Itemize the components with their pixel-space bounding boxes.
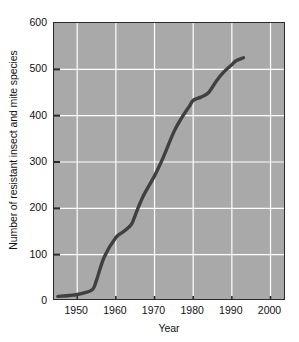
tick-marks bbox=[54, 69, 271, 300]
x-tick-label: 2000 bbox=[250, 304, 290, 316]
y-tick-label: 400 bbox=[7, 109, 47, 120]
plot-area bbox=[53, 22, 285, 300]
data-series-line bbox=[58, 58, 244, 297]
x-tick-label: 1960 bbox=[95, 304, 135, 316]
y-tick-label: 300 bbox=[7, 156, 47, 167]
plot-svg bbox=[54, 23, 285, 300]
y-tick-label: 0 bbox=[7, 295, 47, 306]
y-tick-label: 100 bbox=[7, 248, 47, 259]
x-axis-title: Year bbox=[53, 322, 285, 334]
gridlines bbox=[54, 23, 285, 300]
x-tick-label: 1970 bbox=[134, 304, 174, 316]
y-tick-label: 500 bbox=[7, 63, 47, 74]
y-tick-label: 200 bbox=[7, 202, 47, 213]
y-tick-label: 600 bbox=[7, 17, 47, 28]
chart-figure: Number of resistant insect and mite spec… bbox=[0, 0, 299, 342]
x-tick-label: 1980 bbox=[172, 304, 212, 316]
x-tick-label: 1950 bbox=[56, 304, 96, 316]
x-tick-label: 1990 bbox=[211, 304, 251, 316]
